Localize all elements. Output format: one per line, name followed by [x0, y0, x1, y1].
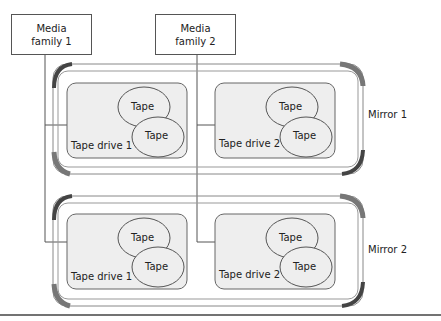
tape-label: Tape — [293, 261, 316, 273]
media-family-2-line2: family 2 — [156, 35, 235, 48]
tape-drive-label: Tape drive 2 — [219, 269, 280, 281]
tape-label: Tape — [131, 232, 154, 244]
tape-drive-label: Tape drive 1 — [71, 140, 132, 152]
media-family-1-box: Media family 1 — [11, 14, 92, 55]
tape-label: Tape — [279, 101, 302, 113]
tape-label: Tape — [145, 130, 168, 142]
media-family-1-line2: family 1 — [12, 35, 91, 48]
media-family-1-line1: Media — [12, 22, 91, 35]
media-family-2-line1: Media — [156, 22, 235, 35]
tape-label: Tape — [279, 232, 302, 244]
mirror-2-label: Mirror 2 — [368, 244, 407, 256]
tape-label: Tape — [293, 130, 316, 142]
media-family-2-box: Media family 2 — [155, 14, 236, 55]
tape-label: Tape — [145, 261, 168, 273]
tape-drive-label: Tape drive 1 — [71, 271, 132, 283]
tape-drive-label: Tape drive 2 — [219, 138, 280, 150]
tape-label: Tape — [131, 101, 154, 113]
mirror-1-label: Mirror 1 — [368, 109, 407, 121]
